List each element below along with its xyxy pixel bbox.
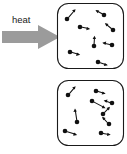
- particle-heat-diagram: heat: [0, 0, 127, 154]
- cold-box: [58, 81, 124, 146]
- hot-box: [58, 4, 124, 69]
- heat-arrow-shape: [2, 25, 60, 49]
- heat-label: heat: [12, 14, 31, 25]
- heat-arrow: [2, 25, 60, 49]
- cold-box-outline: [58, 81, 124, 146]
- hot-box-outline: [58, 4, 124, 69]
- diagram-canvas: heat: [0, 0, 127, 154]
